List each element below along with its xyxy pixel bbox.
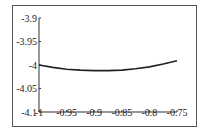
y-axis-ticks: -3.9-3.95-4-4.05-4.1	[16, 13, 41, 118]
x-tick-label: -1	[35, 107, 43, 118]
line-chart: -3.9-3.95-4-4.05-4.1 -1-0.95-0.9-0.85-0.…	[0, 0, 204, 131]
x-tick-label: -0.8	[141, 107, 157, 118]
x-tick-label: -0.85	[111, 107, 132, 118]
y-tick-label: -3.95	[16, 36, 37, 47]
y-tick-label: -3.9	[21, 13, 37, 24]
x-tick-label: -0.9	[86, 107, 102, 118]
x-tick-label: -0.95	[56, 107, 77, 118]
y-tick-label: -4	[29, 60, 37, 71]
data-line	[39, 61, 177, 71]
y-tick-label: -4.05	[16, 83, 37, 94]
x-tick-label: -0.75	[167, 107, 188, 118]
